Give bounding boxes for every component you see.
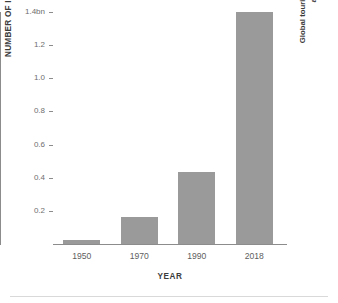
y-tick: 0.8 bbox=[0, 106, 53, 116]
annotation-line-2: after World War II bbox=[308, 0, 319, 58]
y-tick-label: 1.4bn bbox=[25, 7, 45, 17]
y-tick-label: 0.4 bbox=[34, 173, 45, 183]
y-tick: 0.4 bbox=[0, 173, 53, 183]
y-tick: 1.0 bbox=[0, 73, 53, 83]
bar bbox=[63, 240, 100, 244]
y-tick-label: 0.2 bbox=[34, 206, 45, 216]
bar-chart: NUMBER OF INTERNATIONAL TOURIST ARRIVALS… bbox=[0, 0, 338, 303]
y-tick-label: 1.2 bbox=[34, 40, 45, 50]
annotation-line-1: Global tourism increased exponentially bbox=[297, 0, 308, 58]
y-tick: 1.4bn bbox=[0, 7, 53, 17]
x-axis-title: YEAR bbox=[53, 272, 287, 281]
y-tick-label: 1.0 bbox=[34, 73, 45, 83]
footer-divider bbox=[10, 296, 328, 297]
x-tick-label: 1950 bbox=[53, 251, 111, 261]
x-tick-label: 2018 bbox=[226, 251, 284, 261]
y-tick: 0.6 bbox=[0, 140, 53, 150]
y-tick-label: 0.6 bbox=[34, 140, 45, 150]
plot-area bbox=[53, 12, 283, 244]
y-tick: 1.2 bbox=[0, 40, 53, 50]
y-tick-label: 0.8 bbox=[34, 106, 45, 116]
x-axis-line bbox=[53, 244, 287, 245]
bar bbox=[236, 12, 273, 244]
bar bbox=[121, 217, 158, 245]
x-tick-label: 1970 bbox=[111, 251, 169, 261]
y-tick: 0.2 bbox=[0, 206, 53, 216]
x-tick-label: 1990 bbox=[168, 251, 226, 261]
chart-annotation: Global tourism increased exponentially a… bbox=[293, 0, 323, 58]
bar bbox=[178, 172, 215, 244]
